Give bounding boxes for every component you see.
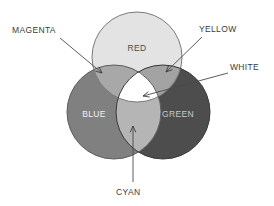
circle-label-red: RED (128, 43, 147, 53)
venn-diagram-canvas: RED BLUE GREEN MAGENTA YELLOW WHITE CYAN (0, 0, 274, 206)
callout-label-magenta: MAGENTA (12, 25, 56, 35)
circle-label-blue: BLUE (82, 109, 106, 119)
color-mixing-diagram: RED BLUE GREEN MAGENTA YELLOW WHITE CYAN (0, 0, 274, 206)
circle-label-green: GREEN (162, 109, 194, 119)
callout-label-white: WHITE (230, 62, 259, 72)
callout-label-cyan: CYAN (116, 187, 140, 197)
callout-label-yellow: YELLOW (199, 24, 237, 34)
